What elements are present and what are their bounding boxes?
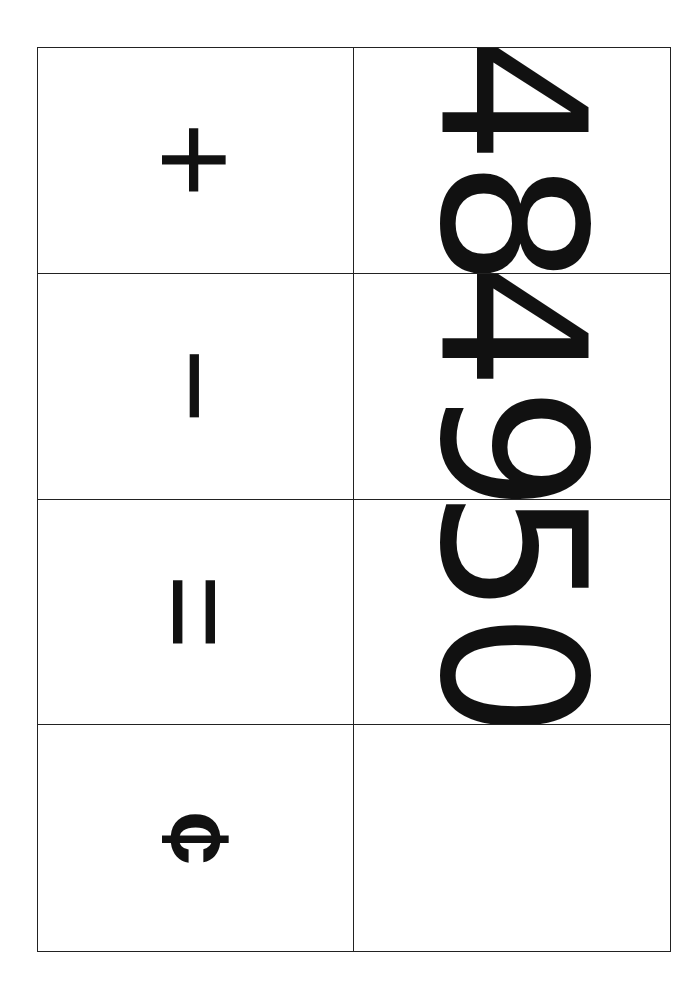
card-grid: + 48 − 49 = 50 ¢ [38, 48, 670, 951]
card-number-48: 48 [354, 48, 670, 274]
card-number-50: 50 [354, 500, 670, 726]
cent-symbol: ¢ [148, 812, 243, 865]
minus-symbol: − [130, 348, 260, 424]
card-equals: = [38, 500, 354, 726]
card-sheet: + 48 − 49 = 50 ¢ [37, 47, 671, 952]
card-empty [354, 725, 670, 951]
number-50: 50 [412, 500, 612, 726]
card-cent: ¢ [38, 725, 354, 951]
card-plus: + [38, 48, 354, 274]
number-49: 49 [412, 274, 612, 500]
card-minus: − [38, 274, 354, 500]
card-number-49: 49 [354, 274, 670, 500]
plus-symbol: + [130, 122, 260, 198]
number-48: 48 [412, 48, 612, 274]
equals-symbol: = [130, 574, 260, 650]
